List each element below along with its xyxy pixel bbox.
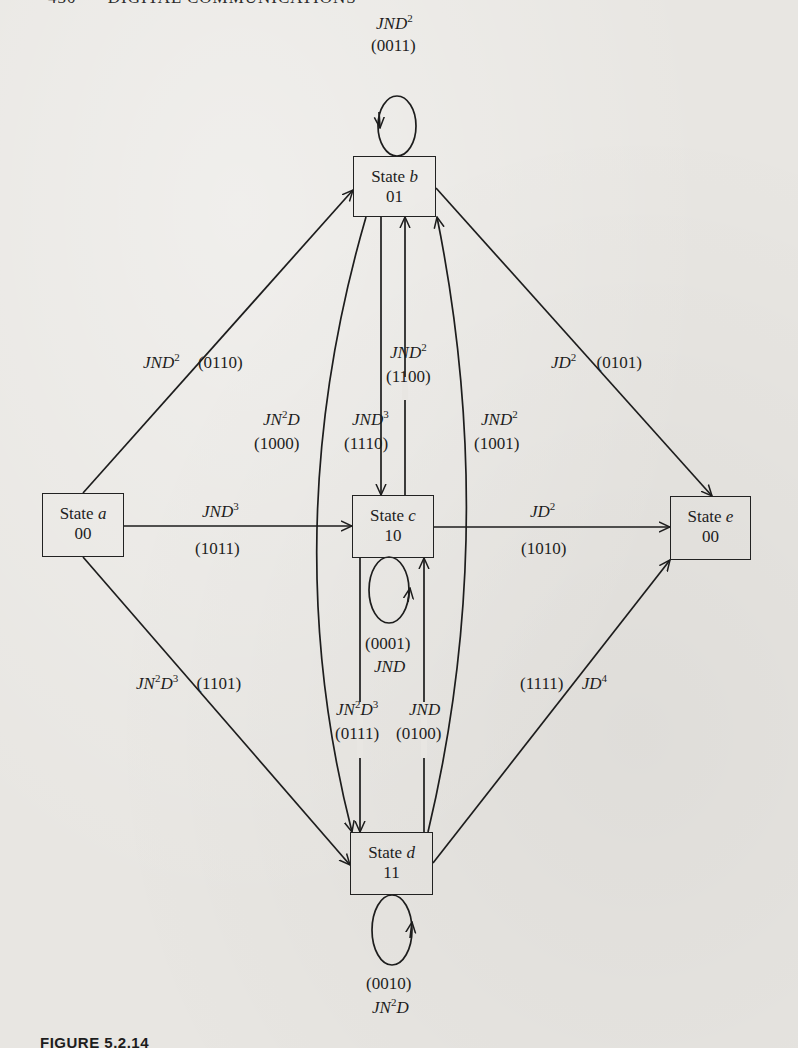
state-d-box: State d 11 (350, 832, 433, 895)
edge-b-self-loop (378, 96, 416, 156)
label-d-b-curve-code: (1001) (474, 434, 519, 454)
label-c-d-expr: JN2D3 (336, 700, 378, 720)
edge-a-to-b (83, 190, 353, 493)
label-a-c-expr: JND3 (202, 502, 239, 522)
state-c-box: State c 10 (352, 495, 434, 558)
state-e-name: State e (671, 507, 750, 527)
label-d-self-expr: JN2D (372, 998, 409, 1018)
state-b-code: 01 (354, 187, 435, 207)
state-d-code: 11 (351, 863, 432, 883)
edge-c-self-loop (369, 557, 409, 623)
label-d-c-code: (0100) (396, 724, 441, 744)
state-c-code: 10 (353, 526, 433, 546)
state-c-name: State c (353, 506, 433, 526)
label-c-self-expr: JND (374, 657, 405, 677)
state-e-box: State e 00 (670, 496, 751, 560)
state-d-name: State d (351, 843, 432, 863)
label-d-self-code: (0010) (366, 974, 411, 994)
edge-d-to-e (433, 560, 670, 863)
state-e-code: 00 (671, 527, 750, 547)
state-a-code: 00 (43, 524, 123, 544)
label-b-c-code: (1110) (344, 434, 388, 454)
state-b-box: State b 01 (353, 156, 436, 217)
label-b-e: JD2 (0101) (551, 353, 642, 373)
edge-a-to-d (83, 557, 350, 865)
label-b-c-expr: JND3 (352, 410, 389, 430)
state-a-name: State a (43, 504, 123, 524)
label-c-b-code: (1100) (386, 367, 431, 387)
label-d-c-expr: JND (409, 700, 440, 720)
label-c-e-expr: JD2 (530, 502, 555, 522)
label-b-d-curve-expr: JN2D (263, 410, 300, 430)
label-b-self-code: (0011) (371, 36, 416, 56)
label-a-c-code: (1011) (195, 539, 240, 559)
label-c-self-code: (0001) (365, 634, 410, 654)
label-c-e-code: (1010) (521, 539, 566, 559)
state-b-name: State b (354, 167, 435, 187)
figure-caption: FIGURE 5.2.14 (40, 1034, 149, 1048)
label-c-b-expr: JND2 (390, 343, 427, 363)
label-b-self-expr: JND2 (376, 14, 413, 34)
label-c-d-code: (0111) (335, 724, 379, 744)
label-d-e: (1111) JD4 (520, 674, 607, 694)
state-a-box: State a 00 (42, 493, 124, 557)
edge-d-self-loop (372, 895, 412, 965)
label-a-b: JND2 (0110) (143, 353, 243, 373)
label-a-d: JN2D3 (1101) (136, 674, 241, 694)
label-b-d-curve-code: (1000) (254, 434, 299, 454)
label-d-b-curve-expr: JND2 (481, 410, 518, 430)
